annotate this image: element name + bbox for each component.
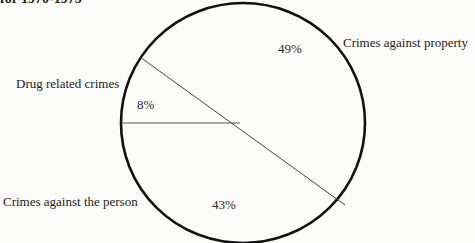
pct-property: 49% <box>278 42 302 56</box>
pct-drug: 8% <box>137 98 154 112</box>
label-crimes-against-the-person: Crimes against the person <box>3 195 138 209</box>
label-drug-related-crimes: Drug related crimes <box>16 77 119 91</box>
label-crimes-against-property: Crimes against property <box>343 36 468 50</box>
pct-person: 43% <box>212 198 236 212</box>
